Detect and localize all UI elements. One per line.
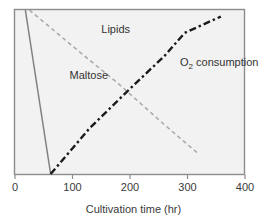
x-axis-tick-label: 100 — [63, 181, 81, 193]
series-label-maltose: Maltose — [70, 69, 109, 81]
x-axis-tick-labels: 0100200300400 — [12, 181, 254, 193]
x-axis-tick-label: 300 — [178, 181, 196, 193]
series-label-lipids: Lipids — [101, 23, 130, 35]
x-axis-tick-label: 0 — [12, 181, 18, 193]
x-axis-ticks — [15, 175, 245, 179]
series-label-o2-tail: consumption — [193, 56, 258, 68]
x-axis-title: Cultivation time (hr) — [86, 203, 181, 215]
chart-figure: 0100200300400 Maltose Lipids O2 consumpt… — [0, 0, 267, 221]
x-axis-tick-label: 400 — [236, 181, 254, 193]
cultivation-time-chart: 0100200300400 Maltose Lipids O2 consumpt… — [0, 0, 267, 221]
x-axis-tick-label: 200 — [121, 181, 139, 193]
